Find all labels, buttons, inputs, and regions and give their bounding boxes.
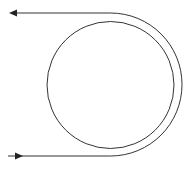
loop-diagram: [0, 0, 193, 169]
background: [0, 0, 193, 169]
